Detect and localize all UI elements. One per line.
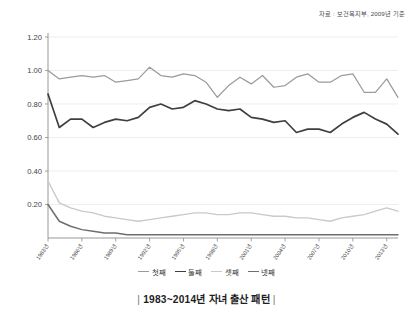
legend-label: 넷째 <box>261 266 275 277</box>
legend-label: 셋째 <box>225 266 239 277</box>
caption-text: 1983~2014년 자녀 출산 패턴 <box>143 294 270 305</box>
x-tick-label: 2004년 <box>271 243 287 261</box>
x-tick-label: 1983년 <box>34 243 50 261</box>
series-lines-group <box>48 67 398 235</box>
legend-swatch <box>211 271 222 272</box>
legend-item[interactable]: 셋째 <box>211 266 239 277</box>
series-line <box>48 205 398 235</box>
chart-legend: 첫째둘째셋째넷째 <box>0 266 413 277</box>
y-tick-label: 1.00 <box>27 66 42 75</box>
legend-swatch <box>138 271 149 272</box>
legend-item[interactable]: 넷째 <box>248 266 276 277</box>
y-tick-label: 0.60 <box>27 133 42 142</box>
legend-item[interactable]: 첫째 <box>138 266 166 277</box>
caption-bar-right: | <box>270 294 279 305</box>
y-tick-label: 0.40 <box>27 167 42 176</box>
x-tick-label: 1989년 <box>102 243 118 261</box>
legend-label: 첫째 <box>152 266 166 277</box>
x-tick-label: 2013년 <box>373 243 389 261</box>
gridlines-group <box>48 37 398 205</box>
y-tick-labels-group: 0.200.400.600.801.001.20 <box>27 33 42 210</box>
y-tick-label: 0.80 <box>27 100 42 109</box>
caption-bar-left: | <box>134 294 143 305</box>
x-tick-label: 1998년 <box>203 243 219 261</box>
legend-item[interactable]: 둘째 <box>175 266 203 277</box>
x-tick-labels-group: 1983년1986년1989년1992년1995년1998년2001년2004년… <box>34 243 388 261</box>
legend-swatch <box>248 271 259 272</box>
x-tick-label: 1986년 <box>68 243 84 261</box>
chart-figure: 자료 : 보건복지부, 2009년 기준 0.200.400.600.801.0… <box>0 0 413 316</box>
legend-swatch <box>175 271 186 272</box>
x-tick-label: 2010년 <box>339 243 355 261</box>
series-line <box>48 181 398 221</box>
y-tick-label: 0.20 <box>27 200 42 209</box>
line-chart-plot: 0.200.400.600.801.001.20 1983년1986년1989년… <box>0 22 413 266</box>
x-tick-label: 1992년 <box>136 243 152 261</box>
source-note: 자료 : 보건복지부, 2009년 기준 <box>319 9 405 18</box>
chart-caption: |1983~2014년 자녀 출산 패턴| <box>0 291 413 306</box>
x-tickmarks-group <box>48 238 387 242</box>
legend-label: 둘째 <box>188 266 202 277</box>
series-line <box>48 67 398 97</box>
x-tick-label: 2007년 <box>305 243 321 261</box>
y-tick-label: 1.20 <box>27 33 42 42</box>
x-tick-label: 2001년 <box>237 243 253 261</box>
series-line <box>48 94 398 134</box>
x-tick-label: 1995년 <box>170 243 186 261</box>
